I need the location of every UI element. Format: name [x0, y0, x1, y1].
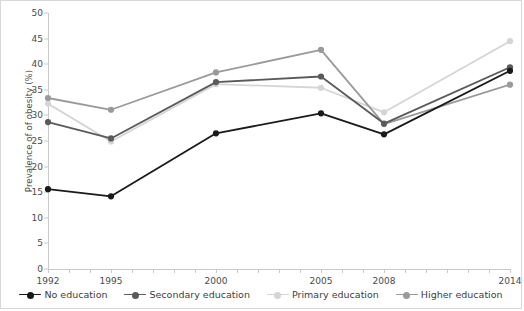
x-tick-mark [321, 269, 322, 273]
x-tick-mark [90, 269, 91, 273]
x-tick-mark [405, 269, 406, 273]
y-tick-label: 25 [32, 136, 43, 146]
x-tick-mark [48, 269, 49, 273]
series-line [48, 41, 510, 141]
data-point-marker [381, 131, 387, 137]
data-point-marker [45, 186, 51, 192]
data-point-marker [213, 130, 219, 136]
x-tick-mark [237, 269, 238, 273]
y-tick-label: 20 [32, 162, 43, 172]
y-tick-label: 0 [37, 264, 43, 274]
legend-label: Primary education [292, 289, 379, 300]
legend-marker-icon [396, 290, 418, 300]
y-tick-label: 5 [37, 238, 43, 248]
x-tick-mark [111, 269, 112, 273]
data-point-marker [381, 120, 387, 126]
legend-label: Higher education [421, 289, 503, 300]
data-point-marker [45, 101, 51, 107]
series-line [48, 67, 510, 138]
data-point-marker [318, 110, 324, 116]
chart-legend: No educationSecondary educationPrimary e… [1, 289, 521, 300]
x-tick-mark [426, 269, 427, 273]
x-tick-mark [510, 269, 511, 273]
data-point-marker [507, 38, 513, 44]
data-point-marker [108, 107, 114, 113]
x-tick-mark [447, 269, 448, 273]
series-lines [48, 13, 510, 269]
data-point-marker [318, 47, 324, 53]
x-tick-label: 2005 [310, 276, 333, 286]
data-point-marker [318, 73, 324, 79]
data-point-marker [45, 119, 51, 125]
x-tick-mark [174, 269, 175, 273]
x-tick-mark [69, 269, 70, 273]
legend-item[interactable]: No education [19, 289, 107, 300]
x-tick-label: 1995 [100, 276, 123, 286]
x-tick-label: 1992 [37, 276, 60, 286]
legend-label: Secondary education [149, 289, 249, 300]
chart-figure: Prevalence of of obesity (%) 05101520253… [0, 0, 522, 309]
x-tick-mark [195, 269, 196, 273]
data-point-marker [108, 135, 114, 141]
x-tick-mark [489, 269, 490, 273]
x-tick-mark [300, 269, 301, 273]
x-tick-mark [216, 269, 217, 273]
x-tick-mark [384, 269, 385, 273]
data-point-marker [318, 85, 324, 91]
legend-marker-icon [124, 290, 146, 300]
data-point-marker [45, 95, 51, 101]
y-tick-label: 15 [32, 187, 43, 197]
legend-item[interactable]: Secondary education [124, 289, 249, 300]
y-tick-label: 10 [32, 213, 43, 223]
y-tick-label: 30 [32, 110, 43, 120]
legend-marker-icon [19, 290, 41, 300]
data-point-marker [213, 69, 219, 75]
y-tick-label: 40 [32, 59, 43, 69]
y-tick-label: 35 [32, 85, 43, 95]
x-tick-label: 2014 [499, 276, 522, 286]
legend-label: No education [44, 289, 107, 300]
x-tick-mark [132, 269, 133, 273]
data-point-marker [108, 193, 114, 199]
legend-marker-icon [267, 290, 289, 300]
data-point-marker [507, 68, 513, 74]
x-tick-label: 2008 [373, 276, 396, 286]
x-tick-mark [342, 269, 343, 273]
x-tick-mark [258, 269, 259, 273]
legend-item[interactable]: Higher education [396, 289, 503, 300]
y-tick-label: 45 [32, 34, 43, 44]
x-tick-mark [363, 269, 364, 273]
data-point-marker [381, 109, 387, 115]
y-tick-label: 50 [32, 8, 43, 18]
series-line [48, 71, 510, 196]
x-tick-mark [279, 269, 280, 273]
x-tick-mark [153, 269, 154, 273]
x-tick-label: 2000 [205, 276, 228, 286]
plot-area: 05101520253035404550 1992199520002005200… [48, 13, 510, 269]
x-tick-mark [468, 269, 469, 273]
data-point-marker [213, 79, 219, 85]
legend-item[interactable]: Primary education [267, 289, 379, 300]
data-point-marker [507, 82, 513, 88]
